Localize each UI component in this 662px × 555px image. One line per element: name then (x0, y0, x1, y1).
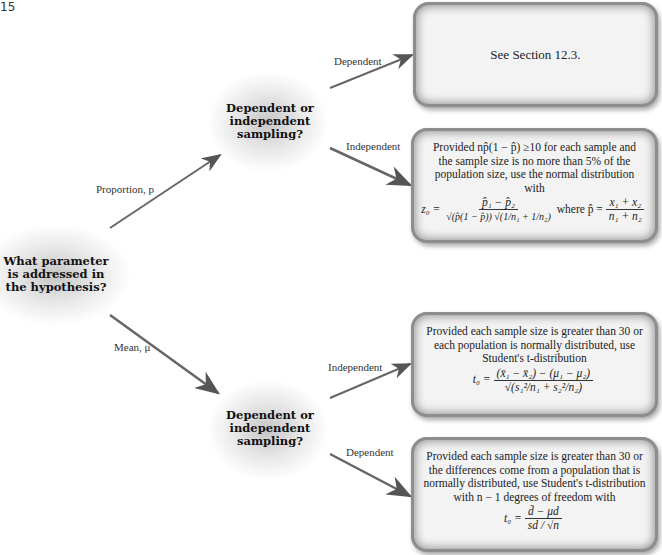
root-question-node: What parameter is addressed in the hypot… (0, 248, 112, 300)
paired-t-formula: t₀ = d̄ − μd sd / √n (411, 505, 658, 532)
box-mean-dependent: Provided each sample size is greater tha… (411, 437, 658, 552)
root-question: What parameter is addressed in the hypot… (0, 255, 112, 294)
label-proportion: Proportion, p (96, 183, 154, 195)
mean-sampling-node: Dependent or independent sampling? (220, 405, 320, 451)
two-sample-t-formula: t₀ = (x̄₁ − x̄₂) − (μ₁ − μ₂) √(s₁²/n₁ + … (411, 367, 658, 394)
label-prop-dependent: Dependent (334, 55, 382, 67)
box-proportion-independent: Provided np̂(1 − p̂) ≥10 for each sample… (411, 128, 658, 243)
label-mean: Mean, μ (114, 341, 150, 353)
arrow-mean (110, 315, 218, 393)
mean-independent-text: Provided each sample size is greater tha… (411, 325, 658, 366)
proportion-sampling-question: Dependent or independent sampling? (220, 102, 320, 141)
arrow-mean-dependent (330, 454, 410, 496)
arrow-prop-independent (330, 148, 410, 185)
see-section-text: See Section 12.3. (490, 48, 580, 62)
label-mean-dependent: Dependent (346, 446, 394, 458)
label-mean-independent: Independent (328, 361, 382, 373)
proportion-sampling-node: Dependent or independent sampling? (220, 98, 320, 144)
two-proportion-z-formula: z₀ = p̂₁ − p̂₂ √(p̂(1 − p̂)) √(1/n₁ + 1/… (411, 196, 658, 223)
box-see-section: See Section 12.3. (413, 2, 658, 107)
mean-sampling-question: Dependent or independent sampling? (220, 409, 320, 448)
proportion-independent-text: Provided np̂(1 − p̂) ≥10 for each sample… (411, 141, 658, 195)
box-mean-independent: Provided each sample size is greater tha… (411, 312, 658, 417)
label-prop-independent: Independent (346, 140, 400, 152)
mean-dependent-text: Provided each sample size is greater tha… (411, 450, 658, 504)
